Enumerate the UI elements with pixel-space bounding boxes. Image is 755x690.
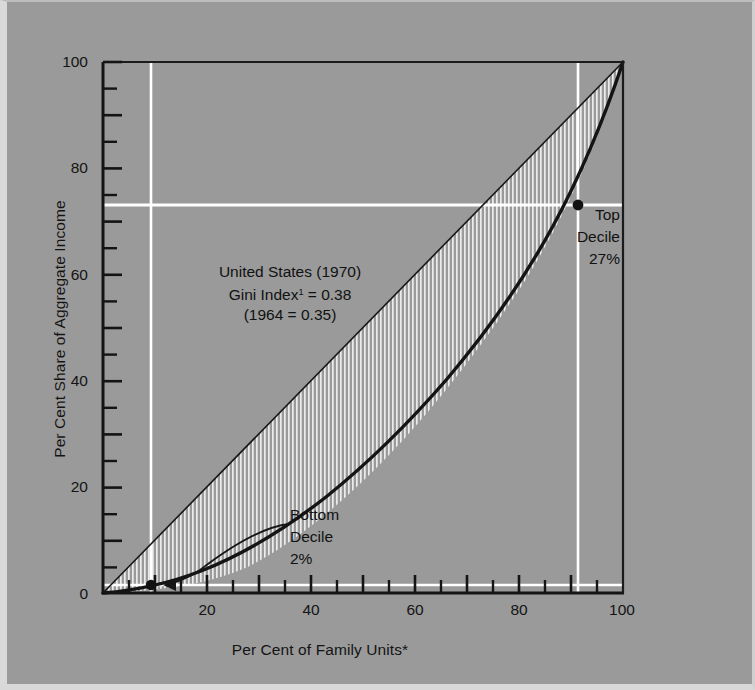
y-tick-label-100: 100 xyxy=(44,53,88,71)
bottom-decile-point xyxy=(146,580,156,590)
lorenz-curve-figure: 100 80 60 40 20 0 20 40 60 80 100 Per Ce… xyxy=(0,0,755,690)
gini-annotation: United States (1970) Gini Index1 = 0.38 … xyxy=(170,262,410,325)
y-axis-ticks xyxy=(103,62,122,567)
gini-annotation-line-3: (1964 = 0.35) xyxy=(170,305,410,325)
x-tick-label-20: 20 xyxy=(185,601,229,619)
top-decile-annotation: Top Decile 27% xyxy=(500,204,620,270)
chart-canvas xyxy=(0,0,755,690)
top-decile-line-2: Decile xyxy=(500,226,620,248)
gini-annotation-line-1: United States (1970) xyxy=(170,262,410,282)
y-tick-label-0: 0 xyxy=(44,585,88,603)
x-axis-title: Per Cent of Family Units* xyxy=(0,641,640,659)
gini-annotation-value: = 0.38 xyxy=(303,286,351,303)
bottom-decile-line-3: 2% xyxy=(290,548,400,570)
bottom-decile-annotation: Bottom Decile 2% xyxy=(290,504,400,570)
x-tick-label-100: 100 xyxy=(598,601,646,619)
x-tick-label-80: 80 xyxy=(497,601,541,619)
x-tick-label-60: 60 xyxy=(393,601,437,619)
gini-annotation-line-2: Gini Index1 = 0.38 xyxy=(170,282,410,305)
gini-annotation-label: Gini Index xyxy=(229,286,299,303)
x-tick-label-40: 40 xyxy=(289,601,333,619)
top-decile-line-3: 27% xyxy=(500,248,620,270)
bottom-decile-line-2: Decile xyxy=(290,526,400,548)
top-decile-line-1: Top xyxy=(500,204,620,226)
bottom-decile-line-1: Bottom xyxy=(290,504,400,526)
y-axis-title: Per Cent Share of Aggregate Income xyxy=(51,89,69,569)
